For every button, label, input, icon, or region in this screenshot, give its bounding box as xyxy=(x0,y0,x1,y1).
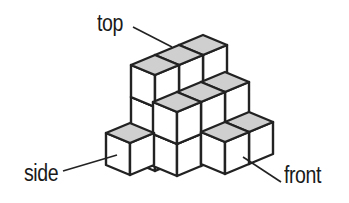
cube-stack xyxy=(106,35,273,176)
leader-line-top xyxy=(133,27,172,47)
leader-line-front xyxy=(243,157,281,182)
label-side: side xyxy=(24,160,58,187)
label-front: front xyxy=(284,162,321,189)
label-top: top xyxy=(97,10,123,37)
